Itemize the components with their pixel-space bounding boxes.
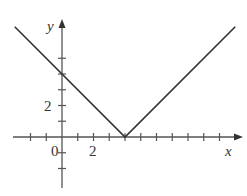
abs-value-line xyxy=(15,27,236,137)
x-tick-label-2: 2 xyxy=(89,143,97,159)
x-axis-label: x xyxy=(224,143,232,159)
y-axis-arrow-icon xyxy=(59,19,66,28)
graph-canvas: x y 0 2 2 xyxy=(0,0,247,196)
axis-ticks xyxy=(31,58,220,168)
x-axis-arrow-icon xyxy=(234,134,243,141)
y-axis xyxy=(59,19,66,188)
y-tick-label-2: 2 xyxy=(44,98,52,114)
origin-label: 0 xyxy=(51,143,59,159)
y-axis-label: y xyxy=(45,18,54,34)
